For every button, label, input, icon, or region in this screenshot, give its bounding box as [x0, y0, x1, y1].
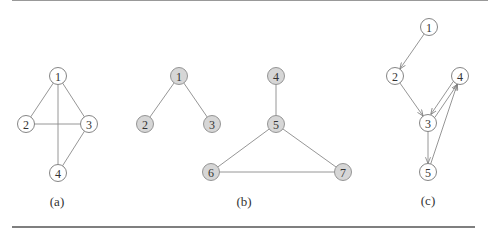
node-label: 1: [55, 70, 61, 84]
edge-a-3-4: [63, 131, 85, 166]
edge-c-4-3: [431, 82, 453, 115]
node-label: 3: [209, 118, 215, 132]
node-label: 6: [208, 166, 214, 180]
node-label: 3: [425, 117, 431, 131]
node-label: 5: [425, 166, 431, 180]
node-label: 1: [426, 21, 432, 35]
caption-b: (b): [236, 194, 251, 209]
node-label: 1: [176, 70, 182, 84]
caption-c: (c): [421, 193, 435, 208]
graph-b: 1234567: [137, 68, 352, 181]
graph-c: 12345: [387, 19, 469, 181]
caption-a: (a): [50, 194, 64, 209]
graph-a: 1234: [18, 68, 98, 182]
node-label: 7: [340, 166, 346, 180]
node-label: 3: [86, 118, 92, 132]
edge-c-3-4: [435, 84, 457, 117]
edge-b-1-2: [150, 83, 174, 117]
node-label: 4: [273, 70, 279, 84]
edge-b-5-6: [218, 129, 269, 167]
edge-a-1-2: [31, 83, 54, 117]
node-label: 2: [392, 70, 398, 84]
edge-c-1-2: [400, 34, 424, 69]
edge-b-5-7: [283, 129, 336, 167]
graph-diagram: 1234 1234567 12345 (a) (b) (c): [0, 0, 488, 230]
edge-b-1-3: [184, 83, 207, 117]
node-label: 2: [23, 118, 29, 132]
edge-a-1-3: [63, 83, 85, 117]
node-label: 5: [273, 118, 279, 132]
node-label: 4: [457, 70, 463, 84]
node-label: 2: [142, 118, 148, 132]
edge-c-2-3: [400, 83, 423, 116]
node-label: 4: [55, 167, 61, 181]
